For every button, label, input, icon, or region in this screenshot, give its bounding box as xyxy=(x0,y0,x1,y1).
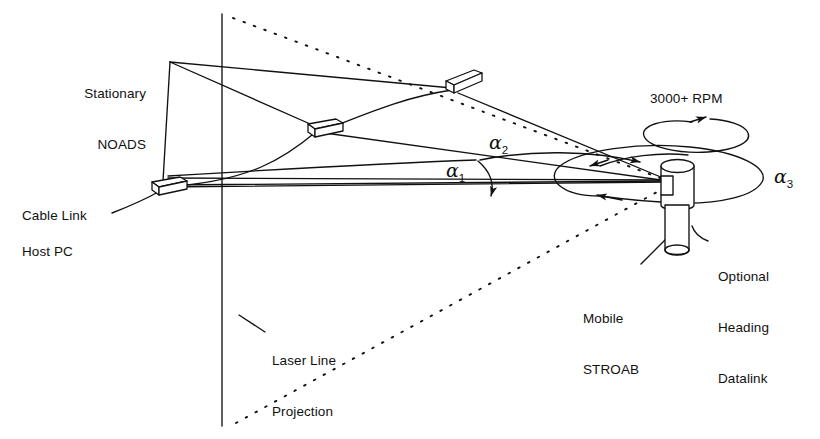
stationary-noads-line2: NOADS xyxy=(18,136,146,153)
alpha3-symbol: α xyxy=(774,165,787,187)
sightline-upper-aux xyxy=(168,178,668,180)
alpha3-subscript: 3 xyxy=(787,178,793,190)
cable-link-curve xyxy=(112,191,160,213)
stationary-noads-line1: Stationary xyxy=(18,85,146,102)
noads-sensor-right[interactable] xyxy=(446,70,482,93)
alpha1-subscript: 1 xyxy=(459,172,465,184)
alpha3-sweep-inner-arrow xyxy=(590,160,608,166)
frame-diagonal-upper xyxy=(170,62,317,127)
mobile-stroab-device[interactable] xyxy=(661,160,694,256)
host-pc-label: Host PC xyxy=(22,243,73,260)
noads-sensor-left[interactable] xyxy=(152,177,187,195)
alpha2-subscript: 2 xyxy=(502,144,508,156)
mobile-stroab-line2: STROAB xyxy=(583,361,639,378)
diagram-canvas: Stationary NOADS Cable Link Host PC Lase… xyxy=(0,0,820,439)
stroab-upper-cap xyxy=(661,160,694,173)
optional-heading-datalink-label: Optional Heading Datalink xyxy=(718,234,769,421)
frame-left-edge xyxy=(163,62,170,181)
alpha3-sweep-arrow xyxy=(597,195,622,200)
alpha1-symbol: α xyxy=(446,159,459,181)
alpha2-label: α2 xyxy=(489,131,508,156)
optional-datalink-line3: Datalink xyxy=(718,370,769,387)
laser-label-leader xyxy=(239,315,265,332)
alpha1-label: α1 xyxy=(446,159,465,184)
mobile-stroab-line1: Mobile xyxy=(583,310,639,327)
alpha2-symbol: α xyxy=(489,131,502,153)
stationary-noads-label: Stationary NOADS xyxy=(18,51,146,187)
cable-link-label: Cable Link xyxy=(22,207,87,224)
laser-line-projection-label: Laser Line Projection xyxy=(272,318,336,439)
optional-datalink-line2: Heading xyxy=(718,319,769,336)
alpha1-arc xyxy=(478,161,492,196)
mobile-stroab-label: Mobile STROAB xyxy=(583,276,639,412)
laser-line-projection-line2: Projection xyxy=(272,403,336,420)
laser-line-upper xyxy=(233,18,668,181)
rpm-rotation-arrow xyxy=(690,117,706,122)
optional-datalink-line1: Optional xyxy=(718,268,769,285)
optional-datalink-leader xyxy=(692,226,708,241)
alpha3-label: α3 xyxy=(774,165,793,190)
laser-line-projection-line1: Laser Line xyxy=(272,352,336,369)
sightline-alpha2-ray xyxy=(168,160,476,176)
rpm-label: 3000+ RPM xyxy=(650,90,723,107)
